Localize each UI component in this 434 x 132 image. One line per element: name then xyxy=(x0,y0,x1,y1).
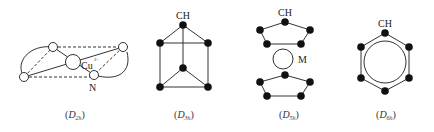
ch-label: CH xyxy=(378,18,392,29)
ch-vertex xyxy=(204,39,212,47)
ch-vertex xyxy=(179,21,187,29)
panel-d6h xyxy=(357,29,413,95)
ch-label: CH xyxy=(176,10,190,21)
caption-d6h: (D6h) xyxy=(376,109,396,121)
metal-center xyxy=(273,49,293,69)
nitrogen-label: N xyxy=(89,82,96,93)
panel-d2h xyxy=(20,43,129,82)
nitrogen-node xyxy=(90,71,99,80)
chelate-arc-right xyxy=(94,52,128,77)
ch-vertex xyxy=(156,83,164,91)
ch-vertex xyxy=(156,39,164,47)
copper-charge-label: 2+ xyxy=(94,57,100,62)
symmetry-diagram: Cu 2+ N CH CH M xyxy=(0,0,434,132)
caption-d3h: (D3h) xyxy=(174,109,194,121)
caption-d2h: (D2h) xyxy=(65,109,85,121)
ch-vertex xyxy=(179,64,187,72)
ligand-node xyxy=(49,43,58,52)
panel-d3h xyxy=(156,21,212,91)
copper-center xyxy=(66,55,81,70)
ligand-node xyxy=(20,73,29,82)
caption-d5h: (D5h) xyxy=(279,109,299,121)
ch-label: CH xyxy=(278,7,292,18)
metal-label: M xyxy=(298,54,307,65)
ligand-node xyxy=(119,43,128,52)
ch-vertex xyxy=(204,83,212,91)
copper-label: Cu xyxy=(81,60,93,71)
aromatic-ring xyxy=(364,41,406,83)
